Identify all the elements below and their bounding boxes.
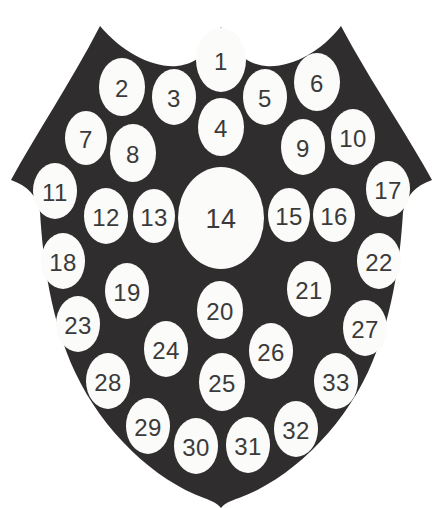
marker-label-5: 5 [258,85,272,112]
marker-20[interactable]: 20 [197,281,243,339]
marker-label-25: 25 [208,370,236,397]
marker-13[interactable]: 13 [133,189,175,243]
marker-label-20: 20 [206,298,234,325]
marker-12[interactable]: 12 [84,188,128,244]
marker-label-10: 10 [339,125,367,152]
marker-label-26: 26 [257,339,285,366]
marker-4[interactable]: 4 [198,98,244,156]
marker-label-17: 17 [374,177,402,204]
marker-15[interactable]: 15 [268,188,310,242]
marker-label-12: 12 [92,204,120,231]
marker-10[interactable]: 10 [331,109,375,165]
marker-31[interactable]: 31 [226,417,270,473]
marker-label-9: 9 [296,135,310,162]
marker-label-15: 15 [275,203,303,230]
marker-label-14: 14 [205,204,236,234]
marker-11[interactable]: 11 [33,163,77,219]
marker-label-27: 27 [351,316,379,343]
marker-label-4: 4 [214,115,228,142]
marker-16[interactable]: 16 [313,188,355,242]
marker-30[interactable]: 30 [174,418,218,474]
marker-27[interactable]: 27 [343,300,387,356]
marker-14[interactable]: 14 [178,167,264,269]
marker-label-32: 32 [282,417,310,444]
marker-label-2: 2 [115,75,129,102]
shield-diagram-figure: 1234567891011121314151617181920212223242… [0,0,443,508]
marker-26[interactable]: 26 [249,323,293,379]
marker-label-1: 1 [214,48,228,75]
marker-28[interactable]: 28 [86,353,130,409]
marker-label-24: 24 [152,337,180,364]
marker-29[interactable]: 29 [126,398,170,454]
marker-label-6: 6 [310,70,324,97]
marker-1[interactable]: 1 [196,28,246,92]
marker-2[interactable]: 2 [99,58,145,116]
marker-19[interactable]: 19 [105,263,149,319]
marker-6[interactable]: 6 [294,53,340,111]
marker-label-21: 21 [295,277,323,304]
marker-label-7: 7 [79,126,93,153]
marker-18[interactable]: 18 [41,233,85,289]
marker-9[interactable]: 9 [281,119,325,175]
marker-24[interactable]: 24 [144,321,188,377]
marker-label-23: 23 [64,312,92,339]
marker-17[interactable]: 17 [366,161,410,217]
marker-label-31: 31 [234,433,262,460]
marker-label-29: 29 [134,414,162,441]
marker-label-11: 11 [42,179,68,206]
shield-diagram-canvas: 1234567891011121314151617181920212223242… [0,0,443,508]
marker-label-13: 13 [140,204,168,231]
marker-5[interactable]: 5 [243,69,287,125]
marker-33[interactable]: 33 [314,353,358,409]
marker-21[interactable]: 21 [287,261,331,317]
marker-3[interactable]: 3 [152,69,196,125]
marker-label-8: 8 [126,141,140,168]
marker-label-33: 33 [322,369,350,396]
marker-label-19: 19 [113,279,141,306]
marker-label-22: 22 [365,249,393,276]
marker-label-3: 3 [167,85,181,112]
marker-label-16: 16 [320,203,348,230]
marker-32[interactable]: 32 [274,401,318,457]
marker-23[interactable]: 23 [56,296,100,352]
marker-label-28: 28 [94,369,122,396]
marker-25[interactable]: 25 [199,353,245,411]
marker-label-18: 18 [49,249,77,276]
marker-7[interactable]: 7 [65,111,107,165]
marker-label-30: 30 [182,434,210,461]
marker-22[interactable]: 22 [357,233,401,289]
marker-8[interactable]: 8 [110,124,156,182]
